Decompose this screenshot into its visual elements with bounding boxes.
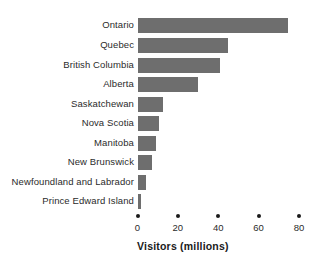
category-label: Alberta bbox=[0, 76, 134, 91]
bar-manitoba bbox=[138, 136, 156, 151]
category-label: Saskatchewan bbox=[0, 96, 134, 111]
x-tick-dot bbox=[176, 214, 180, 218]
x-tick-label: 0 bbox=[118, 221, 158, 234]
bar-alberta bbox=[138, 77, 199, 92]
bar-row: Ontario bbox=[0, 18, 324, 33]
bar-row: Quebec bbox=[0, 38, 324, 53]
category-label: Nova Scotia bbox=[0, 115, 134, 130]
x-axis-title: Visitors (millions) bbox=[137, 240, 229, 252]
bar-british-columbia bbox=[138, 58, 221, 73]
bar-ontario bbox=[138, 18, 288, 33]
bar-row: New Brunswick bbox=[0, 155, 324, 170]
bar-quebec bbox=[138, 38, 229, 53]
category-label: Prince Edward Island bbox=[0, 193, 134, 208]
category-label: Ontario bbox=[0, 17, 134, 32]
plot-area: Ontario Quebec British Columbia Alberta … bbox=[0, 0, 324, 266]
x-tick-dot bbox=[136, 214, 140, 218]
bar-newfoundland-and-labrador bbox=[138, 175, 146, 190]
bar-row: British Columbia bbox=[0, 58, 324, 73]
bar-chart: Ontario Quebec British Columbia Alberta … bbox=[0, 0, 324, 266]
category-label: New Brunswick bbox=[0, 154, 134, 169]
bar-new-brunswick bbox=[138, 155, 152, 170]
bar-row: Alberta bbox=[0, 77, 324, 92]
x-tick-label: 80 bbox=[279, 221, 319, 234]
category-label: Quebec bbox=[0, 37, 134, 52]
x-tick-label: 40 bbox=[198, 221, 238, 234]
x-tick-dot bbox=[257, 214, 261, 218]
bar-saskatchewan bbox=[138, 97, 163, 112]
bar-row: Saskatchewan bbox=[0, 97, 324, 112]
x-tick-label: 20 bbox=[158, 221, 198, 234]
category-label: British Columbia bbox=[0, 57, 134, 72]
x-tick-label: 60 bbox=[239, 221, 279, 234]
bar-row: Manitoba bbox=[0, 136, 324, 151]
bar-nova-scotia bbox=[138, 116, 159, 131]
x-tick-dot bbox=[216, 214, 220, 218]
category-label: Manitoba bbox=[0, 135, 134, 150]
bar-row: Newfoundland and Labrador bbox=[0, 175, 324, 190]
x-tick-dot bbox=[297, 214, 301, 218]
bar-prince-edward-island bbox=[138, 194, 141, 209]
category-label: Newfoundland and Labrador bbox=[0, 174, 134, 189]
bar-row: Nova Scotia bbox=[0, 116, 324, 131]
bar-row: Prince Edward Island bbox=[0, 194, 324, 209]
